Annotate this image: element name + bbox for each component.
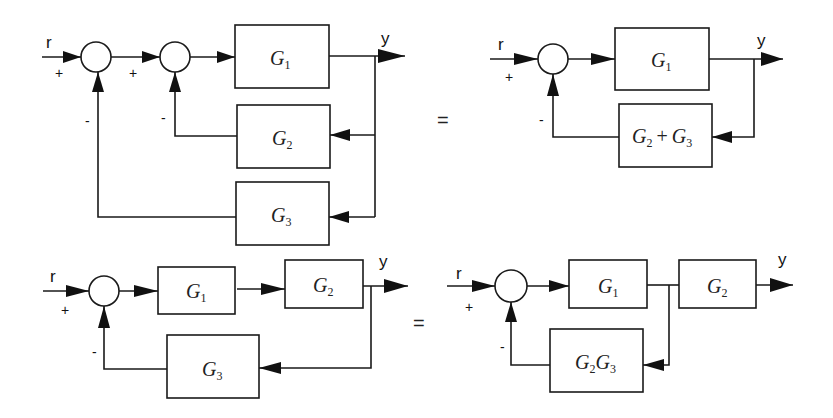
arrow-icon [643, 359, 664, 371]
summing-junction [89, 276, 119, 306]
sign-plus: + [505, 69, 513, 85]
equals-sign: = [437, 109, 449, 131]
arrow-icon [92, 72, 104, 92]
sign-minus: - [85, 113, 90, 129]
sign-minus: - [539, 112, 544, 128]
block-g2-plus-g3-label: G2+G3 [632, 125, 692, 150]
arrow-icon [142, 51, 160, 63]
arrow-icon [472, 280, 495, 292]
sign-plus: + [61, 302, 69, 318]
arrow-icon [712, 131, 732, 143]
feedback-line [511, 302, 550, 365]
output-label: y [757, 31, 766, 50]
block-g2g3-label: G2G3 [575, 351, 616, 376]
block-diagram-canvas: r + + G1 y G2 - G3 - [0, 0, 833, 418]
sign-minus: - [161, 110, 166, 126]
summing-junction-2 [160, 42, 190, 72]
summing-junction [538, 44, 568, 74]
arrow-icon [261, 283, 285, 295]
arrow-icon [384, 279, 408, 293]
arrow-icon [63, 51, 81, 63]
diagram-bottom-left: r + G1 G2 y G3 - [43, 252, 408, 398]
summing-junction [495, 270, 527, 302]
feedback-line [712, 59, 754, 137]
arrow-icon [329, 211, 349, 223]
summing-junction-1 [81, 42, 111, 72]
arrow-icon [770, 278, 793, 292]
output-label: y [778, 250, 787, 269]
arrow-icon [134, 285, 158, 297]
arrow-icon [378, 49, 405, 63]
equals-sign: = [413, 312, 425, 334]
sign-minus: - [500, 339, 505, 355]
input-label: r [498, 35, 504, 54]
input-label: r [46, 33, 52, 52]
arrow-icon [98, 306, 110, 328]
output-label: y [381, 29, 390, 48]
arrow-icon [547, 74, 559, 96]
input-label: r [50, 267, 56, 286]
sign-minus: - [92, 344, 97, 360]
diagram-bottom-right: r + G1 G2 y G2G3 - [447, 250, 793, 392]
feedback-line [553, 74, 619, 137]
feedback-line [104, 306, 167, 369]
arrow-icon [514, 53, 538, 65]
diagram-top-right: r + G1 y G2+G3 - [490, 28, 783, 167]
diagram-top-left: r + + G1 y G2 - G3 - [42, 25, 405, 245]
arrow-icon [169, 72, 181, 92]
arrow-icon [217, 51, 235, 63]
sign-plus: + [465, 299, 473, 315]
arrow-icon [505, 302, 517, 322]
arrow-icon [330, 129, 350, 141]
arrow-icon [259, 362, 281, 374]
sign-plus: + [129, 65, 137, 81]
arrow-icon [66, 285, 89, 297]
feedback-line [175, 72, 237, 136]
output-label: y [379, 252, 388, 271]
sign-plus: + [55, 65, 63, 81]
arrow-icon [549, 280, 569, 292]
arrow-icon [761, 52, 783, 66]
input-label: r [456, 264, 462, 283]
arrow-icon [591, 53, 615, 65]
feedback-line [98, 72, 236, 217]
